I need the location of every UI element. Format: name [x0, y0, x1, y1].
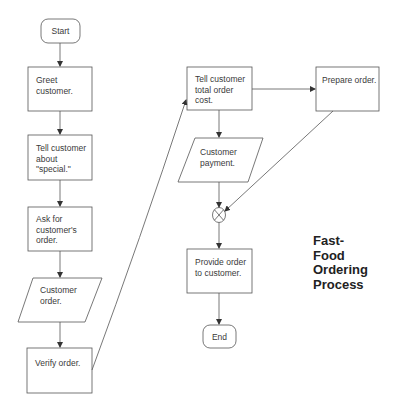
greet-customer-label: Greet customer. [36, 75, 88, 96]
verify-order-box [27, 348, 92, 393]
customer-order-label: Customer order. [40, 285, 84, 306]
title-line-4: Process [313, 278, 368, 293]
title-line-1: Fast- [313, 234, 368, 249]
customer-payment-label: Customer payment. [200, 147, 244, 168]
ask-order-label: Ask for customer's order. [36, 214, 84, 246]
title-line-3: Ordering [313, 263, 368, 278]
flowchart-canvas [0, 0, 393, 410]
diagram-title: Fast- Food Ordering Process [313, 234, 368, 292]
prepare-order-box [316, 67, 379, 111]
tell-special-label: Tell customer about "special." [36, 143, 90, 175]
end-label: End [203, 325, 236, 348]
start-label: Start [41, 19, 80, 43]
provide-order-label: Provide order to customer. [195, 257, 251, 278]
tell-total-label: Tell customer total order cost. [195, 74, 251, 106]
prepare-order-label: Prepare order. [322, 75, 380, 86]
edge-verify-total [92, 100, 186, 370]
verify-order-label: Verify order. [35, 358, 91, 369]
title-line-2: Food [313, 249, 368, 264]
